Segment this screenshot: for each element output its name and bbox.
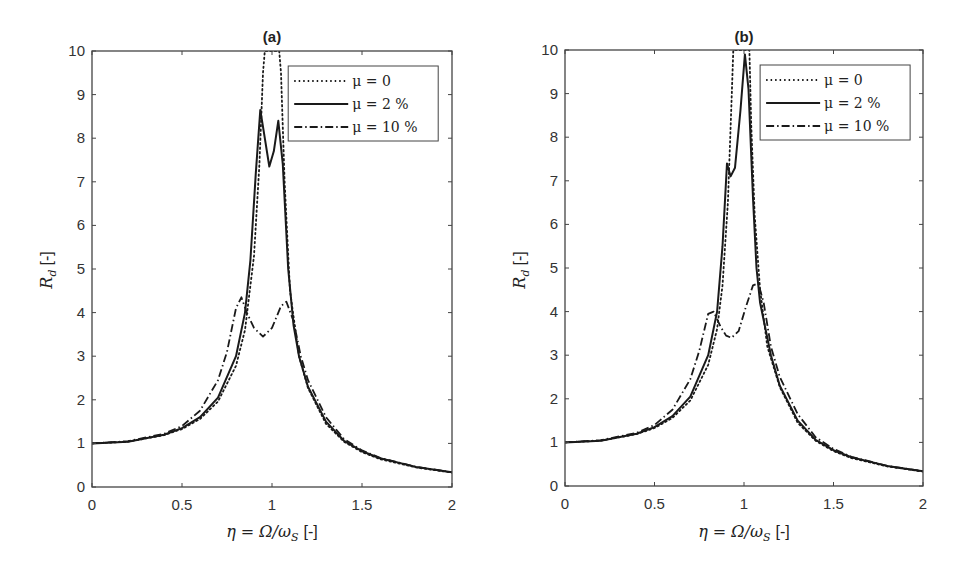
y-axis-label: Rd[-] <box>37 251 59 289</box>
y-tick-label: 10 <box>68 42 85 59</box>
y-tick-label: 5 <box>550 259 558 276</box>
y-tick-label: 3 <box>550 346 558 363</box>
y-tick-label: 4 <box>550 303 558 320</box>
legend-entry: μ = 2 % <box>352 96 408 112</box>
y-tick-label: 7 <box>77 173 85 190</box>
y-tick-label: 10 <box>541 41 558 58</box>
x-tick-label: 0.5 <box>644 495 665 512</box>
x-tick-label: 1.5 <box>352 496 373 513</box>
x-tick-label: 0 <box>88 496 96 513</box>
x-axis-label: η = Ω/ωS[-] <box>226 522 318 544</box>
y-axis-label: Rd[-] <box>510 251 532 289</box>
y-tick-label: 9 <box>77 86 85 103</box>
x-tick-label: 1 <box>740 495 748 512</box>
y-tick-label: 1 <box>550 433 558 450</box>
y-tick-label: 3 <box>77 347 85 364</box>
y-tick-label: 2 <box>77 391 85 408</box>
legend-entry: μ = 0 <box>824 72 863 88</box>
legend: μ = 0μ = 2 %μ = 10 % <box>288 66 438 141</box>
chart-panel-a: (a) 00.511.52012345678910 μ = 0μ = 2 %μ … <box>37 28 456 544</box>
y-tick-label: 0 <box>550 477 558 494</box>
panel-title: (a) <box>263 28 281 45</box>
y-tick-label: 8 <box>77 129 85 146</box>
legend-entry: μ = 10 % <box>352 119 417 135</box>
y-tick-label: 1 <box>77 434 85 451</box>
x-tick-label: 1 <box>268 496 276 513</box>
legend-entry: μ = 10 % <box>824 118 889 134</box>
y-tick-label: 4 <box>77 304 85 321</box>
x-tick-label: 2 <box>448 496 456 513</box>
legend-entry: μ = 0 <box>352 73 391 89</box>
chart-panel-b: (b) 00.511.52012345678910 μ = 0μ = 2 %μ … <box>510 28 927 544</box>
y-tick-label: 6 <box>77 216 85 233</box>
figure: (a) 00.511.52012345678910 μ = 0μ = 2 %μ … <box>0 0 956 565</box>
y-tick-label: 2 <box>550 390 558 407</box>
x-tick-label: 0 <box>561 495 569 512</box>
y-tick-label: 8 <box>550 128 558 145</box>
x-tick-label: 0.5 <box>172 496 193 513</box>
y-tick-label: 9 <box>550 85 558 102</box>
x-tick-label: 2 <box>919 495 927 512</box>
y-tick-label: 6 <box>550 215 558 232</box>
series-line-2 <box>92 297 452 472</box>
x-tick-label: 1.5 <box>823 495 844 512</box>
panel-title: (b) <box>734 28 753 45</box>
legend-entry: μ = 2 % <box>824 95 880 111</box>
y-tick-label: 5 <box>77 260 85 277</box>
series-line-1 <box>92 110 452 472</box>
legend: μ = 0μ = 2 %μ = 10 % <box>760 65 910 140</box>
y-tick-label: 0 <box>77 478 85 495</box>
x-axis-label: η = Ω/ωS[-] <box>698 522 790 544</box>
series-line-2 <box>565 283 923 471</box>
y-tick-label: 7 <box>550 172 558 189</box>
